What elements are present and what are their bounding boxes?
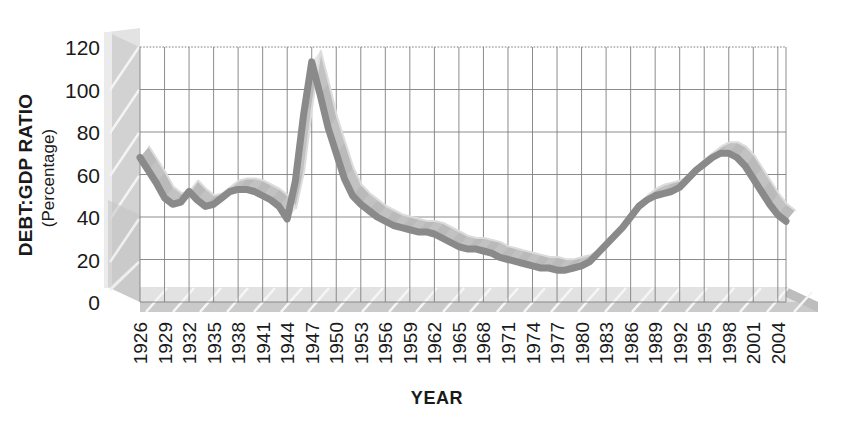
axis-wall-3d bbox=[104, 28, 140, 302]
x-tick-label: 1947 bbox=[302, 322, 323, 364]
y-tick-label: 0 bbox=[88, 291, 100, 314]
debt-gdp-ratio-line-chart: 020406080100120 192619291932193519381941… bbox=[0, 0, 864, 426]
x-tick-label: 1935 bbox=[204, 322, 225, 364]
x-tick-label: 1998 bbox=[719, 322, 740, 364]
axis-floor-3d bbox=[140, 287, 818, 312]
x-tick-label: 1926 bbox=[130, 322, 151, 364]
x-axis-title: YEAR bbox=[411, 388, 463, 408]
x-tick-label: 1938 bbox=[228, 322, 249, 364]
x-tick-label: 1992 bbox=[670, 322, 691, 364]
x-tick-label: 1929 bbox=[155, 322, 176, 364]
y-axis-subtitle: (Percentage) bbox=[39, 129, 58, 227]
x-tick-label: 1953 bbox=[351, 322, 372, 364]
x-tick-label: 2001 bbox=[743, 322, 764, 364]
x-tick-label: 1995 bbox=[694, 322, 715, 364]
chart-container: 020406080100120 192619291932193519381941… bbox=[0, 0, 864, 426]
y-tick-label: 40 bbox=[77, 206, 100, 229]
y-tick-label: 60 bbox=[77, 164, 100, 187]
x-tick-label: 1968 bbox=[473, 322, 494, 364]
x-tick-label: 1989 bbox=[645, 322, 666, 364]
x-tick-label: 1962 bbox=[424, 322, 445, 364]
x-tick-label: 1974 bbox=[523, 322, 544, 365]
x-tick-label: 1959 bbox=[400, 322, 421, 364]
x-tick-label: 1980 bbox=[572, 322, 593, 364]
x-tick-label: 1986 bbox=[621, 322, 642, 364]
x-tick-label: 1950 bbox=[326, 322, 347, 364]
x-axis-tick-labels: 1926192919321935193819411944194719501953… bbox=[130, 322, 789, 365]
x-tick-label: 1956 bbox=[375, 322, 396, 364]
x-tick-label: 1965 bbox=[449, 322, 470, 364]
x-tick-label: 1983 bbox=[596, 322, 617, 364]
y-tick-label: 20 bbox=[77, 249, 100, 272]
x-tick-label: 1971 bbox=[498, 322, 519, 364]
x-tick-label: 1944 bbox=[277, 322, 298, 365]
x-tick-label: 1977 bbox=[547, 322, 568, 364]
x-tick-label: 1941 bbox=[253, 322, 274, 364]
x-tick-label: 1932 bbox=[179, 322, 200, 364]
y-tick-label: 120 bbox=[65, 36, 100, 59]
x-tick-label: 2004 bbox=[768, 322, 789, 365]
y-axis-title: DEBT:GDP RATIO bbox=[15, 94, 36, 257]
y-tick-label: 100 bbox=[65, 79, 100, 102]
y-tick-label: 80 bbox=[77, 121, 100, 144]
